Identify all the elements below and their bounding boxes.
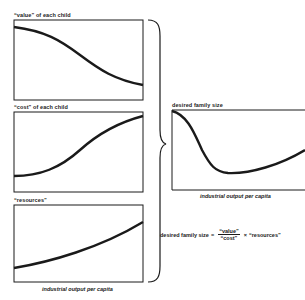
formula-denominator: “cost” (220, 235, 239, 241)
formula-numerator: “value” (218, 228, 240, 235)
formula-times: × (244, 232, 247, 238)
formula-equals: = (211, 232, 214, 238)
resources-chart-frame (14, 205, 143, 282)
resources-curve (14, 222, 143, 268)
desired-family-size-curve (172, 111, 305, 173)
brace-icon (148, 20, 166, 282)
desired-family-size-chart (172, 110, 305, 190)
left-x-axis-label: industrial output per capita (42, 286, 113, 292)
resources-chart (14, 205, 143, 282)
desired-family-size-label: desired family size (172, 102, 223, 108)
cost-curve (14, 116, 143, 176)
value-curve (14, 27, 143, 85)
right-x-axis-label: industrial output per capita (200, 193, 271, 199)
value-chart-label: “value” of each child (14, 12, 71, 18)
formula-lhs: desired family size (160, 232, 209, 238)
formula-factor: “resources” (249, 232, 281, 238)
value-chart-frame (14, 20, 143, 100)
diagram-canvas (0, 0, 305, 300)
cost-chart-label: “cost” of each child (14, 104, 68, 110)
formula: desired family size = “value” “cost” × “… (160, 228, 281, 241)
value-chart (14, 20, 143, 100)
resources-chart-label: “resources” (14, 197, 47, 203)
formula-fraction: “value” “cost” (218, 228, 240, 241)
cost-chart (14, 112, 143, 192)
